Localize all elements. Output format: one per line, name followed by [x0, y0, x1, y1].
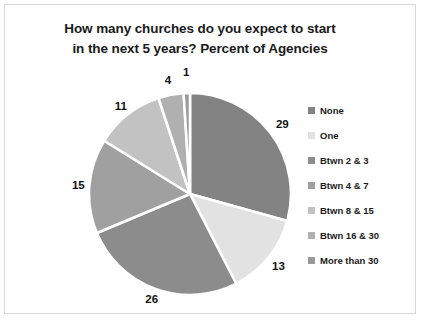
pie-slice-value-label: 26 — [145, 293, 158, 305]
legend-item-label: Btwn 8 & 15 — [320, 205, 374, 216]
legend-swatch-icon — [308, 257, 315, 264]
legend-swatch-icon — [308, 182, 315, 189]
legend-item[interactable]: Btwn 2 & 3 — [308, 154, 412, 166]
pie-slice-value-label: 4 — [165, 74, 171, 86]
legend-item[interactable]: One — [308, 129, 412, 141]
legend-swatch-icon — [308, 207, 315, 214]
chart-frame: How many churches do you expect to start… — [4, 4, 416, 314]
pie-slice-value-label: 1 — [183, 66, 189, 78]
legend-item-label: More than 30 — [320, 255, 379, 266]
legend-swatch-icon — [308, 157, 315, 164]
legend-item[interactable]: Btwn 4 & 7 — [308, 179, 412, 191]
legend-item[interactable]: None — [308, 104, 412, 116]
legend-item[interactable]: Btwn 8 & 15 — [308, 204, 412, 216]
legend-item[interactable]: More than 30 — [308, 254, 412, 266]
chart-title: How many churches do you expect to start… — [25, 19, 375, 58]
legend-item-label: Btwn 2 & 3 — [320, 155, 369, 166]
legend-item-label: Btwn 4 & 7 — [320, 180, 369, 191]
legend-swatch-icon — [308, 232, 315, 239]
legend-swatch-icon — [308, 132, 315, 139]
legend-item-label: One — [320, 130, 338, 141]
pie-slice-value-label: 11 — [115, 100, 127, 112]
legend-swatch-icon — [308, 107, 315, 114]
legend-item-label: Btwn 16 & 30 — [320, 230, 379, 241]
legend-item[interactable]: Btwn 16 & 30 — [308, 229, 412, 241]
pie-slice-value-label: 15 — [72, 179, 85, 191]
chart-legend: NoneOneBtwn 2 & 3Btwn 4 & 7Btwn 8 & 15Bt… — [308, 104, 412, 279]
pie-plot-area: 291326151141 — [79, 83, 301, 305]
legend-item-label: None — [320, 105, 344, 116]
pie-slice-value-label: 29 — [276, 118, 289, 130]
pie-slice-value-label: 13 — [272, 260, 285, 272]
chart-title-line-2: in the next 5 years? Percent of Agencies — [25, 39, 375, 59]
chart-title-line-1: How many churches do you expect to start — [25, 19, 375, 39]
pie-chart — [88, 92, 292, 296]
